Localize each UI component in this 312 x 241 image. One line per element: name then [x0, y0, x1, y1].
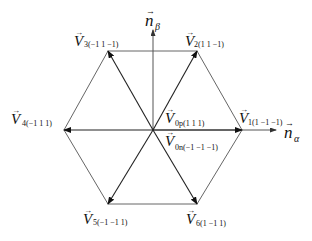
- v4-subscript: 4(−1 1 1): [22, 119, 52, 128]
- v0p-subscript: 0p(1 1 1): [175, 119, 205, 128]
- label-v6: → V 6(1 −1 1): [186, 206, 226, 228]
- space-vector-diagram: n → β n → α → V 3(−1 1 −1) → V 2(1 1 −1)…: [0, 0, 312, 241]
- v5-subscript: 5(−1 −1 1): [93, 218, 128, 227]
- vector-v5-arrow: [108, 130, 153, 204]
- v0n-subscript: 0n(−1 −1 −1): [175, 143, 218, 152]
- label-v5: → V 5(−1 −1 1): [83, 206, 128, 227]
- label-v3: → V 3(−1 1 −1): [74, 28, 119, 49]
- beta-subscript: β: [154, 21, 160, 32]
- vector-arrow-icon: →: [146, 6, 155, 16]
- vector-v3-arrow: [108, 51, 153, 130]
- vector-v6-arrow: [153, 130, 197, 204]
- v4-symbol: V: [11, 111, 22, 127]
- beta-axis-label: n → β: [145, 6, 160, 32]
- v1-subscript: 1(1 −1 −1): [248, 118, 283, 127]
- vector-arrow-icon: →: [285, 118, 294, 128]
- label-v1: → V 1(1 −1 −1): [239, 105, 283, 127]
- label-v0n: → V 0n(−1 −1 −1): [165, 128, 218, 152]
- label-v2: → V 2(1 1 −1): [185, 28, 224, 49]
- label-v4: → V 4(−1 1 1): [11, 106, 52, 128]
- v6-subscript: 6(1 −1 1): [196, 219, 226, 228]
- v3-subscript: 3(−1 1 −1): [84, 40, 119, 49]
- label-v0p: → V 0p(1 1 1): [165, 105, 205, 128]
- alpha-axis-label: n → α: [284, 118, 300, 144]
- alpha-subscript: α: [294, 133, 300, 144]
- v2-subscript: 2(1 1 −1): [194, 40, 224, 49]
